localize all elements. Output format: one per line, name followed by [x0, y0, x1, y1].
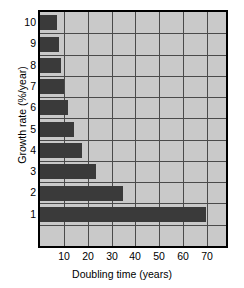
plot-area — [38, 10, 228, 248]
horizontal-gridline — [40, 33, 226, 34]
horizontal-gridline — [40, 182, 226, 183]
horizontal-gridline — [40, 225, 226, 226]
x-axis-tick-label: 20 — [76, 250, 100, 263]
y-axis-tick-label: 5 — [8, 123, 36, 136]
bar — [40, 143, 82, 158]
y-axis-tick-label: 10 — [8, 16, 36, 29]
y-axis-tick-label: 4 — [8, 144, 36, 157]
bar — [40, 37, 59, 52]
bar — [40, 122, 74, 137]
x-axis-tick-label: 70 — [195, 250, 219, 263]
horizontal-gridline — [40, 161, 226, 162]
horizontal-gridline — [40, 97, 226, 98]
bar — [40, 79, 64, 94]
horizontal-gridline — [40, 140, 226, 141]
bar — [40, 207, 206, 222]
x-axis-tick-labels: 10203040506070 — [38, 250, 228, 264]
x-axis-title: Doubling time (years) — [0, 268, 244, 280]
plot-inner — [40, 12, 226, 246]
y-axis-tick-labels: 10987654321 — [8, 10, 36, 248]
horizontal-gridline — [40, 203, 226, 204]
x-axis-tick-label: 10 — [52, 250, 76, 263]
bar — [40, 100, 68, 115]
bar — [40, 186, 123, 201]
y-axis-tick-label: 1 — [8, 208, 36, 221]
x-axis-tick-label: 60 — [171, 250, 195, 263]
horizontal-gridline — [40, 118, 226, 119]
vertical-gridline — [207, 12, 208, 246]
bar — [40, 58, 61, 73]
x-axis-tick-label: 50 — [147, 250, 171, 263]
y-axis-tick-label: 3 — [8, 165, 36, 178]
y-axis-tick-label: 8 — [8, 59, 36, 72]
bar — [40, 15, 57, 30]
y-axis-tick-label: 7 — [8, 80, 36, 93]
horizontal-gridline — [40, 76, 226, 77]
horizontal-gridline — [40, 55, 226, 56]
y-axis-tick-label: 6 — [8, 101, 36, 114]
x-axis-tick-label: 40 — [123, 250, 147, 263]
x-axis-tick-label: 30 — [100, 250, 124, 263]
bar-chart-figure: Growth rate (%/year) 10987654321 1020304… — [0, 0, 244, 288]
y-axis-tick-label: 2 — [8, 186, 36, 199]
y-axis-tick-label: 9 — [8, 37, 36, 50]
bar — [40, 164, 96, 179]
